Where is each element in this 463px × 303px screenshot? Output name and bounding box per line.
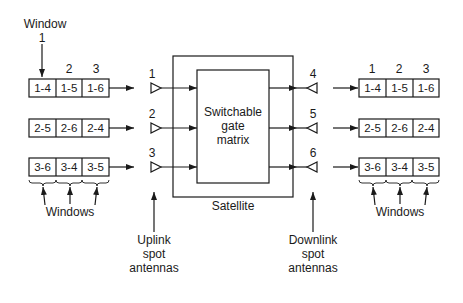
downlink-antenna-6-label: 6 (307, 147, 319, 160)
matrix-label-line-1: Switchable (197, 106, 269, 119)
uplink-label-line-3: antennas (124, 262, 184, 275)
diagram-canvas (0, 0, 463, 303)
uplink-antenna-1-label: 1 (146, 68, 158, 81)
satellite-label: Satellite (193, 200, 273, 213)
left-braces (29, 180, 109, 186)
left-cell: 1-5 (56, 79, 82, 97)
right-cell: 3-6 (359, 158, 386, 176)
uplink-antenna-3-label: 3 (146, 147, 158, 160)
downlink-label-line-1: Downlink (278, 234, 348, 247)
right-cell: 3-5 (413, 158, 439, 176)
left-cell: 1-6 (82, 79, 109, 97)
uplink-label-line-1: Uplink (124, 234, 184, 247)
right-windows-label: Windows (365, 206, 435, 219)
uplink-label-line-2: spot (124, 248, 184, 261)
left-windows-label: Windows (35, 206, 105, 219)
right-cell: 1-6 (413, 79, 439, 97)
right-cell: 2-4 (413, 119, 439, 137)
right-window-number-2: 2 (393, 63, 405, 76)
left-cell: 3-6 (29, 158, 56, 176)
uplink-antenna-2-label: 2 (146, 108, 158, 121)
downlink-antenna-5-label: 5 (307, 108, 319, 121)
left-cell: 3-4 (56, 158, 82, 176)
right-cell: 3-4 (386, 158, 413, 176)
left-cell: 3-5 (82, 158, 109, 176)
right-window-number-1: 1 (366, 63, 378, 76)
window-number-1: 1 (36, 32, 48, 45)
downlink-antenna-4-label: 4 (307, 68, 319, 81)
right-cell: 1-5 (386, 79, 413, 97)
downlink-label-line-2: spot (278, 248, 348, 261)
matrix-label-line-3: matrix (197, 134, 269, 147)
right-cell: 2-6 (386, 119, 413, 137)
right-cell: 2-5 (359, 119, 386, 137)
left-cell: 1-4 (29, 79, 56, 97)
right-braces (359, 180, 439, 186)
right-window-number-3: 3 (420, 63, 432, 76)
left-cell: 2-5 (29, 119, 56, 137)
window-label: Window (20, 18, 70, 31)
right-cell: 1-4 (359, 79, 386, 97)
left-cell: 2-6 (56, 119, 82, 137)
window-number-2: 2 (63, 63, 75, 76)
matrix-label-line-2: gate (197, 120, 269, 133)
window-number-3: 3 (90, 63, 102, 76)
downlink-label-line-3: antennas (278, 262, 348, 275)
left-cell: 2-4 (82, 119, 109, 137)
